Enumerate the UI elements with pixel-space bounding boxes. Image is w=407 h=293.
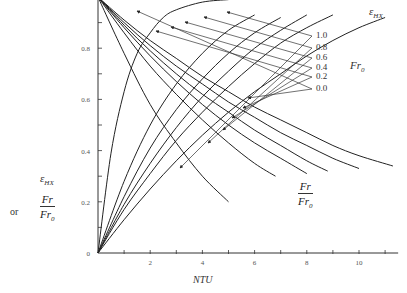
ratio-numerator: Fr bbox=[298, 180, 313, 194]
legend-entry: 0.2 bbox=[316, 71, 327, 81]
den-text: Fr bbox=[40, 208, 51, 220]
y-axis-label-or: or bbox=[10, 206, 18, 217]
legend-entry: 0.6 bbox=[316, 52, 327, 62]
ratio-curve bbox=[98, 0, 229, 202]
legend-entry: 0.0 bbox=[316, 83, 327, 93]
effectiveness-curve bbox=[98, 15, 307, 253]
ratio-annotation: Fr Fr0 bbox=[298, 180, 313, 210]
y-tick-label: 0.4 bbox=[81, 148, 90, 156]
y-tick-label: 0 bbox=[87, 250, 91, 258]
leader-line-effectiveness bbox=[227, 12, 312, 36]
leader-line-effectiveness bbox=[171, 27, 312, 68]
x-tick-label: 2 bbox=[148, 259, 152, 267]
x-axis-label: NTU bbox=[193, 274, 212, 285]
chart-canvas: 24681000.20.40.60.8 bbox=[0, 0, 407, 293]
leader-line-ratio bbox=[208, 48, 312, 143]
x-tick-label: 6 bbox=[253, 259, 257, 267]
y-tick-label: 0.2 bbox=[81, 199, 90, 207]
ratio-curves bbox=[98, 0, 393, 202]
fraction-numerator: Fr bbox=[40, 193, 55, 207]
x-tick-label: 4 bbox=[201, 259, 205, 267]
y-axis-label-fraction: Fr Fr0 bbox=[40, 193, 55, 223]
legend-title-sub: 0 bbox=[361, 66, 365, 74]
x-tick-label: 8 bbox=[305, 259, 309, 267]
epsilon-subscript: HX bbox=[373, 12, 382, 20]
y-axis-label-epsilon: εHX bbox=[40, 172, 54, 187]
y-tick-label: 0.8 bbox=[81, 45, 90, 53]
den-subscript: 0 bbox=[51, 215, 55, 223]
legend-title-main: Fr bbox=[350, 59, 361, 71]
legend-entry: 0.8 bbox=[316, 42, 327, 52]
legend-title: Fr0 bbox=[350, 59, 365, 74]
ratio-den-sub: 0 bbox=[309, 202, 313, 210]
effectiveness-curve bbox=[98, 18, 385, 254]
legend-entry: 1.0 bbox=[316, 30, 327, 40]
ratio-denominator: Fr0 bbox=[298, 194, 313, 210]
fraction-denominator: Fr0 bbox=[40, 207, 55, 223]
effectiveness-annotation: εHX bbox=[369, 5, 383, 20]
y-tick-label: 0.6 bbox=[81, 96, 90, 104]
epsilon-subscript: HX bbox=[44, 179, 53, 187]
leader-line-ratio bbox=[232, 68, 312, 118]
x-tick-label: 10 bbox=[356, 259, 364, 267]
ratio-den-text: Fr bbox=[298, 195, 309, 207]
